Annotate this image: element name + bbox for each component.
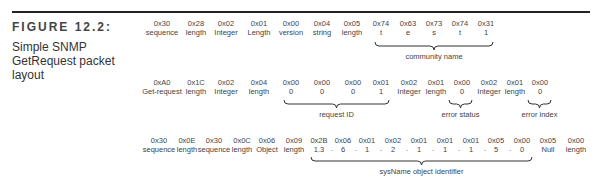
byte-cell: 0x00length xyxy=(556,136,596,154)
brace-label: error status xyxy=(442,110,480,119)
byte-label: 0 xyxy=(520,87,560,96)
brace-icon xyxy=(310,157,533,166)
oid-dot-separator: . xyxy=(380,144,382,153)
brace-label: request ID xyxy=(319,110,354,119)
byte-hex: 0x00 xyxy=(556,136,596,145)
figure-number: FIGURE 12.2: xyxy=(12,20,112,34)
oid-dot-separator: . xyxy=(331,144,333,153)
top-rule xyxy=(12,11,590,13)
byte-cell: 0x311 xyxy=(466,19,506,37)
oid-dot-separator: . xyxy=(509,144,511,153)
brace-icon xyxy=(283,100,390,109)
brace-icon xyxy=(527,100,552,109)
brace-label: error index xyxy=(522,110,558,119)
oid-dot-separator: . xyxy=(484,144,486,153)
oid-dot-separator: . xyxy=(355,144,357,153)
figure-caption: Simple SNMP GetRequest packet layout xyxy=(12,40,132,82)
brace-label: community name xyxy=(405,52,462,61)
byte-label: length xyxy=(556,145,596,154)
oid-dot-separator: . xyxy=(458,144,460,153)
oid-dot-separator: . xyxy=(406,144,408,153)
brace-icon xyxy=(374,42,494,51)
byte-cell: 0x000 xyxy=(520,78,560,96)
oid-dot-separator: . xyxy=(432,144,434,153)
brace-icon xyxy=(448,100,473,109)
brace-label: sysName object identifier xyxy=(380,167,464,176)
byte-hex: 0x31 xyxy=(466,19,506,28)
byte-hex: 0x00 xyxy=(520,78,560,87)
byte-label: 1 xyxy=(466,28,506,37)
